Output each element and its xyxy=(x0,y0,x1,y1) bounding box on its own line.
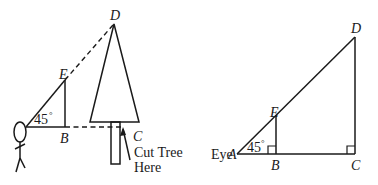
label-e: E xyxy=(58,67,68,82)
angle-label: 45 xyxy=(247,140,261,155)
person-head xyxy=(14,122,26,142)
degree-symbol: ° xyxy=(261,138,265,148)
label-c: C xyxy=(351,158,361,173)
tree-crown xyxy=(90,24,139,122)
label-e: E xyxy=(269,105,279,120)
right-figure: Eye A D E B C 45 ° xyxy=(211,21,361,173)
cut-arrow-head xyxy=(120,127,126,136)
left-figure: D E B C 45 ° Cut Tree Here xyxy=(14,8,183,175)
label-b: B xyxy=(271,158,280,173)
label-d: D xyxy=(350,21,361,36)
cut-label-line1: Cut Tree xyxy=(134,145,183,160)
label-a: A xyxy=(227,147,237,162)
person-leg-left xyxy=(16,158,20,172)
degree-symbol: ° xyxy=(49,110,53,120)
angle-label: 45 xyxy=(34,112,48,127)
person-leg-right xyxy=(20,158,25,168)
right-angle-b xyxy=(268,146,276,154)
cut-label-line2: Here xyxy=(134,160,161,175)
right-angle-c xyxy=(347,146,355,154)
tree-trunk xyxy=(111,122,120,164)
segment-ad xyxy=(237,37,355,154)
diagram-canvas: D E B C 45 ° Cut Tree Here Eye A D E B C… xyxy=(0,0,378,185)
label-c: C xyxy=(133,129,143,144)
label-b: B xyxy=(60,131,69,146)
sight-line-ed xyxy=(65,25,113,80)
label-d: D xyxy=(109,8,120,23)
